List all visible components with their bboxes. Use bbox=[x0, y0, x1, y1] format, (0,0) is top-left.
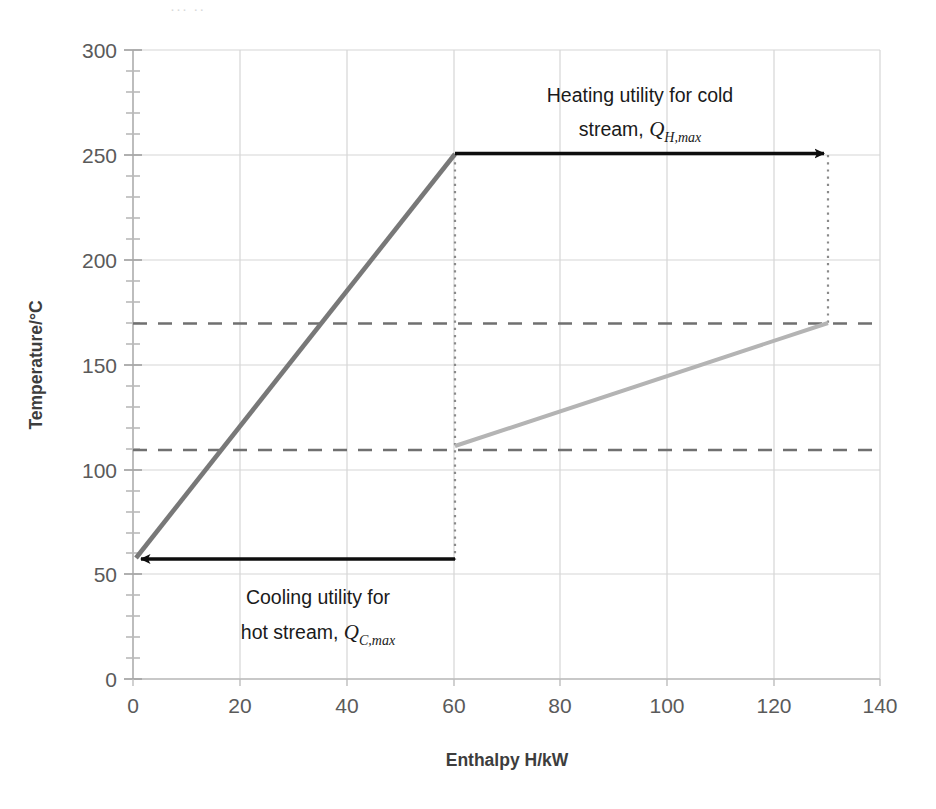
y-tick-label-200: 200 bbox=[82, 249, 117, 272]
cooling-annotation-subscript: C,max bbox=[359, 633, 396, 648]
x-tick-label-120: 120 bbox=[756, 694, 791, 717]
chart-svg: 300 250 200 150 100 50 0 0 20 40 60 80 1… bbox=[0, 0, 936, 809]
y-tick-label-300: 300 bbox=[82, 39, 117, 62]
heating-annotation-line1: Heating utility for cold bbox=[547, 84, 733, 106]
composite-curve-chart: ··· ·· bbox=[0, 0, 936, 809]
x-tick-label-80: 80 bbox=[548, 694, 571, 717]
x-tick-label-40: 40 bbox=[335, 694, 358, 717]
x-tick-label-100: 100 bbox=[649, 694, 684, 717]
y-tick-label-250: 250 bbox=[82, 144, 117, 167]
x-axis-title: Enthalpy H/kW bbox=[446, 750, 569, 770]
y-tick-label-50: 50 bbox=[94, 563, 117, 586]
x-tick-label-140: 140 bbox=[862, 694, 897, 717]
heating-annotation-subscript: H,max bbox=[663, 130, 702, 145]
y-tick-label-0: 0 bbox=[105, 668, 117, 691]
heating-annotation-prefix: stream, bbox=[579, 118, 649, 140]
cooling-annotation-symbol: Q bbox=[344, 620, 359, 644]
heating-annotation-symbol: Q bbox=[649, 117, 664, 141]
x-tick-label-20: 20 bbox=[228, 694, 251, 717]
x-tick-label-0: 0 bbox=[127, 694, 139, 717]
y-tick-label-150: 150 bbox=[82, 354, 117, 377]
cooling-annotation-prefix: hot stream, bbox=[241, 621, 344, 643]
y-axis-title: Temperature/°C bbox=[26, 300, 46, 430]
x-axis-major-ticks bbox=[133, 679, 880, 686]
cooling-annotation-line1: Cooling utility for bbox=[246, 586, 391, 608]
scan-artifact-top: ··· ·· bbox=[170, 0, 330, 14]
y-tick-label-100: 100 bbox=[82, 459, 117, 482]
x-tick-label-60: 60 bbox=[442, 694, 465, 717]
